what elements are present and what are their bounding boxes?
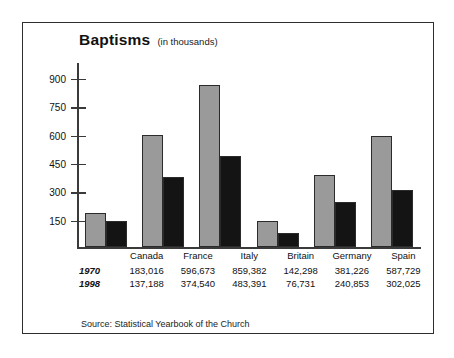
table-header-row: CanadaFranceItalyBritainGermanySpain [77,249,429,264]
bar-germany-1998 [335,202,356,248]
bar-france-1970 [142,135,163,248]
header-spacer [77,249,121,264]
tick-label: 150 [49,215,66,226]
chart-panel: Baptisms (in thousands) 1503004506007509… [22,22,434,334]
column-header-britain: Britain [275,249,326,264]
bar-italy-1998 [220,156,241,247]
table-row: 1998137,188374,540483,39176,731240,85330… [77,277,429,290]
column-header-france: France [172,249,223,264]
cell-germany-1998: 240,853 [326,277,377,290]
tick-label: 750 [49,102,66,113]
source-note: Source: Statistical Yearbook of the Chur… [81,319,250,329]
cell-germany-1970: 381,226 [326,264,377,277]
bar-britain-1970 [257,221,278,248]
cell-france-1998: 374,540 [172,277,223,290]
bar-britain-1998 [278,233,299,248]
cell-france-1970: 596,673 [172,264,223,277]
column-header-italy: Italy [224,249,275,264]
cell-canada-1970: 183,016 [121,264,172,277]
bar-canada-1998 [106,221,127,247]
chart-header: Baptisms (in thousands) [79,31,218,49]
bar-group-canada [85,63,127,247]
bar-spain-1998 [392,190,413,247]
bar-canada-1970 [85,213,106,248]
bar-group-britain [257,63,299,247]
bar-germany-1970 [314,175,335,247]
tick-label: 900 [49,73,66,84]
page-title: Baptisms [79,31,150,49]
table-row: 1970183,016596,673859,382142,298381,2265… [77,264,429,277]
cell-italy-1970: 859,382 [224,264,275,277]
bar-group-spain [371,63,413,247]
bar-italy-1970 [199,85,220,248]
cell-canada-1998: 137,188 [121,277,172,290]
cell-italy-1998: 483,391 [224,277,275,290]
bar-group-france [142,63,184,247]
plot-area: 150300450600750900 [77,63,421,249]
tick-label: 600 [49,130,66,141]
column-header-germany: Germany [326,249,377,264]
bar-group-italy [199,63,241,247]
row-label-1998: 1998 [77,277,121,290]
bar-spain-1970 [371,136,392,247]
column-header-spain: Spain [378,249,429,264]
data-table: CanadaFranceItalyBritainGermanySpain 197… [77,249,429,290]
row-label-1970: 1970 [77,264,121,277]
bar-france-1998 [163,177,184,248]
cell-britain-1970: 142,298 [275,264,326,277]
column-header-canada: Canada [121,249,172,264]
cell-spain-1998: 302,025 [378,277,429,290]
bar-groups [77,63,421,247]
tick-label: 450 [49,158,66,169]
cell-britain-1998: 76,731 [275,277,326,290]
cell-spain-1970: 587,729 [378,264,429,277]
bar-group-germany [314,63,356,247]
tick-label: 300 [49,187,66,198]
chart-subtitle: (in thousands) [157,36,217,47]
